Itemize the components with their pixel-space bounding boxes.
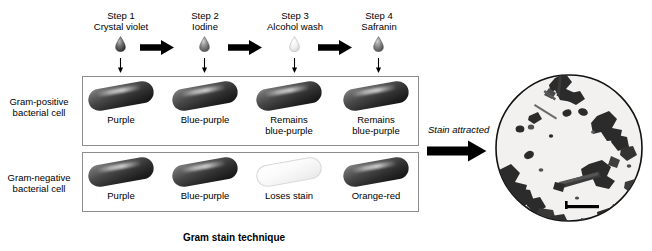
cell-slot-negative-step3: Loses stain (250, 161, 328, 201)
row-label-line1: Gram-negative (8, 172, 71, 183)
bacterial-cell (171, 155, 240, 188)
down-arrow-icon (375, 58, 382, 73)
step-header-4: Step 4 Safranin (340, 10, 418, 33)
bacterial-cell (87, 155, 156, 188)
cell-caption: Blue-purple (166, 190, 244, 201)
cell-slot-positive-step4: Remains blue-purple (337, 85, 415, 136)
step-reagent: Iodine (166, 21, 244, 32)
cell-caption: Remains blue-purple (250, 114, 328, 136)
step-number: Step 1 (82, 10, 160, 21)
cell-slot-positive-step3: Remains blue-purple (250, 85, 328, 136)
right-arrow-icon (427, 140, 487, 162)
bacterial-cell (87, 79, 156, 112)
cell-slot-negative-step4: Orange-red (337, 161, 415, 201)
step-header-1: Step 1 Crystal violet (82, 10, 160, 33)
step-header-3: Step 3 Alcohol wash (250, 10, 340, 33)
cell-caption: Remains blue-purple (337, 114, 415, 136)
step-header-2: Step 2 Iodine (166, 10, 244, 33)
cropped-header-text (0, 0, 652, 3)
row-label-gram-positive: Gram-positive bacterial cell (0, 96, 78, 119)
droplet-icon (289, 36, 300, 52)
row-label-line2: bacterial cell (13, 107, 66, 118)
cell-caption: Purple (82, 190, 160, 201)
row-label-line1: Gram-positive (9, 96, 68, 107)
step-reagent: Alcohol wash (250, 21, 340, 32)
bacterial-cell (342, 79, 411, 112)
cell-slot-positive-step2: Blue-purple (166, 85, 244, 125)
cell-caption: Blue-purple (166, 114, 244, 125)
down-arrow-icon (117, 58, 124, 73)
cell-caption: Purple (82, 114, 160, 125)
row-label-line2: bacterial cell (13, 183, 66, 194)
right-arrow-icon (228, 40, 262, 55)
down-arrow-icon (291, 58, 298, 73)
cell-slot-positive-step1: Purple (82, 85, 160, 125)
bacterial-cell (171, 79, 240, 112)
droplet-icon (199, 36, 210, 52)
step-number: Step 4 (340, 10, 418, 21)
figure-caption: Gram stain technique (0, 232, 468, 243)
cell-slot-negative-step2: Blue-purple (166, 161, 244, 201)
step-reagent: Safranin (340, 21, 418, 32)
droplet-icon (373, 36, 384, 52)
cell-slot-negative-step1: Purple (82, 161, 160, 201)
cell-caption: Loses stain (250, 190, 328, 201)
step-number: Step 2 (166, 10, 244, 21)
cell-caption: Orange-red (337, 190, 415, 201)
micrograph-circle (493, 72, 645, 224)
step-reagent: Crystal violet (82, 21, 160, 32)
step-number: Step 3 (250, 10, 340, 21)
bacterial-cell (255, 155, 324, 188)
stain-attracted-label: Stain attracted (428, 124, 489, 135)
right-arrow-icon (140, 40, 174, 55)
droplet-icon (115, 36, 126, 52)
row-label-gram-negative: Gram-negative bacterial cell (0, 172, 78, 195)
bacterial-cell (342, 155, 411, 188)
bacterial-cell (255, 79, 324, 112)
down-arrow-icon (201, 58, 208, 73)
right-arrow-icon (318, 40, 352, 55)
